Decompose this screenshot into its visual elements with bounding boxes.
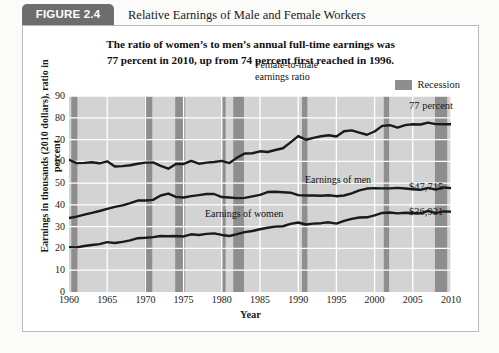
men-series-label: Earnings of men (305, 174, 371, 186)
x-axis-tick-label: 1980 (205, 294, 239, 306)
chart-legend: Recession (395, 78, 460, 91)
x-axis-tick-label: 1975 (167, 294, 201, 306)
y-axis-tick-label: 40 (55, 200, 65, 210)
plot-area (69, 96, 451, 292)
y-axis-tick-label: 60 (55, 156, 65, 166)
figure-subtitle-line-1: The ratio of women’s to men’s annual ful… (23, 36, 478, 52)
x-axis-tick-label: 1985 (243, 294, 277, 306)
figure-panel: The ratio of women’s to men’s annual ful… (22, 25, 479, 332)
x-axis-tick-label: 2010 (434, 294, 468, 306)
recession-band (233, 96, 244, 292)
y-axis-tick-label: 30 (55, 222, 65, 232)
x-axis-title: Year (23, 309, 478, 320)
y-axis-tick-label: 10 (55, 265, 65, 275)
chart-svg (69, 96, 451, 292)
y-axis-tick-label: 70 (55, 135, 65, 145)
recession-band (71, 96, 77, 292)
figure-subtitle: The ratio of women’s to men’s annual ful… (23, 36, 478, 68)
recession-band (302, 96, 307, 292)
y-axis-tick-label: 20 (55, 243, 65, 253)
y-axis-tick-label: 90 (55, 91, 65, 101)
y-axis-tick-labels: 0102030405060708090 (37, 96, 65, 292)
figure-subtitle-line-2: 77 percent in 2010, up from 74 percent f… (23, 52, 478, 68)
figure-title: Relative Earnings of Male and Female Wor… (128, 6, 366, 24)
x-axis-tick-label: 1990 (281, 294, 315, 306)
women-series-label: Earnings of women (205, 208, 283, 220)
y-axis-tick-label: 50 (55, 178, 65, 188)
ratio-end-callout: 77 percent (409, 100, 453, 112)
ratio-series-label-line-1: Female-to-male (255, 59, 318, 71)
x-axis-tick-label: 2000 (358, 294, 392, 306)
y-axis-tick-label: 80 (55, 113, 65, 123)
x-axis-tick-label: 1970 (128, 294, 162, 306)
women-end-callout: $36,931 (409, 206, 443, 218)
x-axis-tick-label: 1965 (90, 294, 124, 306)
figure-number-badge: FIGURE 2.4 (22, 4, 114, 25)
recession-legend-swatch (395, 80, 412, 90)
ratio-series-label-line-2: earnings ratio (255, 71, 318, 83)
x-axis-tick-labels: 1960196519701975198019851990199520002005… (69, 294, 451, 308)
x-axis-tick-label: 2005 (396, 294, 430, 306)
figure-root: FIGURE 2.4 Relative Earnings of Male and… (0, 0, 499, 353)
men-end-callout: $47,715 (409, 181, 443, 193)
ratio-series-label: Female-to-male earnings ratio (255, 59, 318, 83)
recession-legend-label: Recession (417, 79, 460, 90)
x-axis-tick-label: 1960 (52, 294, 86, 306)
figure-header: FIGURE 2.4 Relative Earnings of Male and… (22, 4, 477, 26)
x-axis-tick-label: 1995 (319, 294, 353, 306)
